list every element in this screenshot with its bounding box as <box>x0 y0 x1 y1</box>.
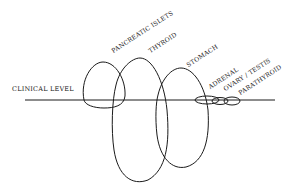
thyroid-loop <box>112 58 168 182</box>
diagram-canvas: CLINICAL LEVEL PANCREATIC ISLETS THYROID… <box>0 0 296 192</box>
stomach-loop <box>156 68 208 167</box>
clinical-level-label: CLINICAL LEVEL <box>12 86 74 93</box>
pancreatic-islets-loop <box>83 62 125 108</box>
parathyroid-loop <box>224 97 240 105</box>
